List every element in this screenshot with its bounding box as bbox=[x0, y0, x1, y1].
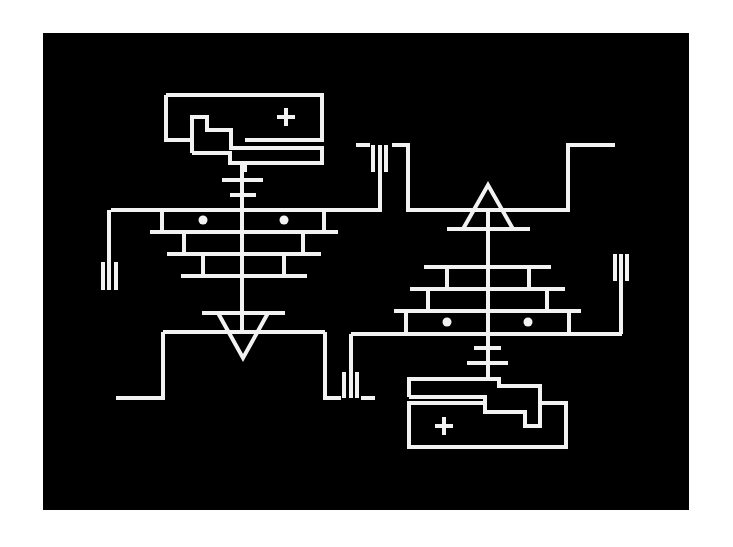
plus-icon bbox=[277, 108, 295, 126]
battery-inner2 bbox=[192, 153, 245, 163]
circuit-glyph-diagram bbox=[0, 0, 733, 547]
battery-outer bbox=[166, 95, 322, 140]
right-glyph bbox=[351, 145, 627, 447]
dot-marker bbox=[443, 318, 452, 327]
left-glyph bbox=[103, 95, 386, 398]
battery-inner bbox=[166, 95, 322, 170]
wires bbox=[116, 332, 163, 398]
battery-outer bbox=[409, 403, 566, 447]
wires bbox=[325, 332, 341, 398]
dot-marker bbox=[524, 318, 533, 327]
plus-icon bbox=[435, 417, 453, 435]
dot-marker bbox=[280, 216, 289, 225]
dot-marker bbox=[199, 216, 208, 225]
top-wire bbox=[356, 145, 615, 210]
